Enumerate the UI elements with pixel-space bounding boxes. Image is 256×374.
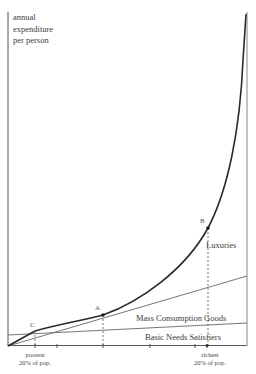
- y-axis-label: annual expenditure per person: [13, 12, 93, 47]
- point-b-marker: [206, 226, 210, 230]
- point-b-label: B: [200, 216, 205, 227]
- x-label-poorest: poorest 20% of pop.: [10, 351, 60, 367]
- mass-consumption-label: Mass Consumption Goods: [136, 313, 226, 324]
- basic-needs-label: Basic Needs Satisfiers: [145, 332, 221, 343]
- x-label-richest: richest 20% of pop.: [185, 351, 235, 367]
- luxuries-label: Luxuries: [206, 240, 236, 251]
- x-left-line-1: poorest: [10, 351, 60, 359]
- ylabel-line-1: annual: [13, 12, 93, 24]
- x-right-line-1: richest: [185, 351, 235, 359]
- point-a-marker: [101, 313, 105, 317]
- x-right-line-2: 20% of pop.: [185, 359, 235, 367]
- point-a-label: A: [95, 303, 100, 314]
- x-left-line-2: 20% of pop.: [10, 359, 60, 367]
- expenditure-curve: [8, 14, 246, 346]
- ylabel-line-3: per person: [13, 35, 93, 47]
- point-c-label: C: [30, 320, 35, 331]
- ylabel-line-2: expenditure: [13, 24, 93, 36]
